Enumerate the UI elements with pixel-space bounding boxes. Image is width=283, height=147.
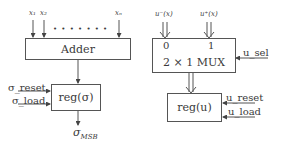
reg-u-block: reg(u) — [167, 93, 222, 122]
input-x1-label: x₁ — [29, 9, 36, 17]
msb-subscript: MSB — [81, 133, 98, 141]
sigma-msb-output-label: σMSB — [73, 126, 98, 141]
u-sel-label: u_sel — [243, 47, 269, 58]
adder-label: Adder — [61, 43, 95, 56]
mux-label: 2 × 1 MUX — [163, 56, 225, 69]
sigma-load-label: σ_load — [12, 95, 45, 106]
u-load-label: u_load — [228, 106, 261, 117]
sigma-reset-label: σ_reset — [8, 82, 46, 93]
adder-block: Adder — [25, 38, 131, 60]
mux-block: 0 1 2 × 1 MUX — [152, 38, 236, 73]
u-reset-label: u_reset — [226, 92, 263, 103]
connection-wires — [0, 0, 283, 147]
u-minus-input-label: u⁻(x) — [155, 10, 173, 18]
input-x2-label: x₂ — [40, 9, 47, 17]
mux-port-0: 0 — [163, 40, 169, 51]
reg-u-label: reg(u) — [177, 101, 211, 114]
reg-sigma-block: reg(σ) — [51, 84, 101, 111]
u-plus-input-label: u⁺(x) — [200, 10, 218, 18]
reg-sigma-label: reg(σ) — [59, 91, 94, 104]
mux-port-1: 1 — [208, 40, 214, 51]
input-xn-label: xₙ — [115, 9, 122, 17]
ellipsis-dots: • • • • • • • — [53, 25, 108, 33]
sigma-symbol: σ — [73, 126, 81, 139]
